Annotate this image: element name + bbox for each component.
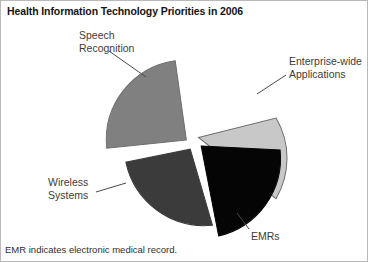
pie-slice-wireless-systems[interactable] — [125, 148, 212, 235]
slice-label-enterprise-wide-applications: Enterprise-wide Applications — [289, 55, 362, 81]
slice-label-enterprise-wide-applications-line1: Enterprise-wide — [289, 55, 362, 67]
slice-label-speech-recognition: Speech Recognition — [79, 29, 134, 55]
slice-label-wireless-systems-line2: Systems — [48, 189, 88, 202]
footnote-text: EMR indicates electronic medical record. — [5, 244, 177, 255]
figure-container: Health Information Technology Priorities… — [0, 0, 368, 262]
slice-label-emrs: EMRs — [251, 230, 280, 243]
leader-line-enterprise-wide-applications — [257, 75, 286, 94]
pie-chart — [1, 1, 368, 262]
slice-label-enterprise-wide-applications-line2: Applications — [289, 68, 362, 81]
slice-label-emrs-line1: EMRs — [251, 230, 280, 242]
leader-line-wireless-systems — [96, 183, 126, 192]
slice-label-speech-recognition-line2: Recognition — [79, 42, 134, 55]
slice-label-wireless-systems-line1: Wireless — [48, 176, 88, 188]
slice-label-wireless-systems: Wireless Systems — [48, 176, 88, 202]
slice-label-speech-recognition-line1: Speech — [79, 29, 115, 41]
